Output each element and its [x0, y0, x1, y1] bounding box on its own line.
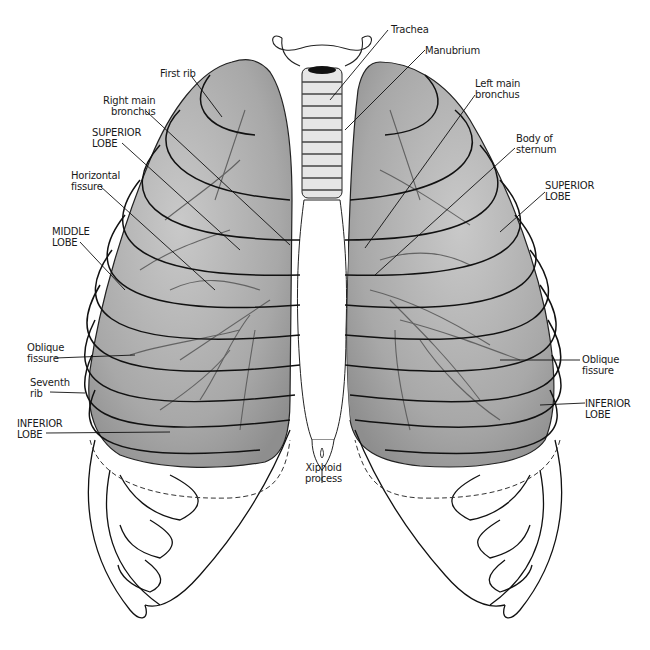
left-lung [322, 62, 554, 467]
sternum [297, 200, 346, 470]
label-oblique-fissure-left: Oblique fissure [582, 354, 619, 376]
label-horizontal-fissure: Horizontal fissure [71, 170, 120, 192]
label-trachea: Trachea [391, 24, 429, 35]
lungs-thorax-diagram [0, 0, 650, 650]
manubrium-outline [273, 36, 372, 66]
label-right-main-bronchus: Right main bronchus [103, 95, 156, 117]
label-manubrium: Manubrium [425, 45, 480, 56]
label-inferior-lobe-left: INFERIOR LOBE [585, 398, 631, 420]
label-superior-lobe-right: SUPERIOR LOBE [92, 127, 141, 149]
label-xiphoid-process: Xiphoid process [305, 462, 342, 484]
label-inferior-lobe-right: INFERIOR LOBE [17, 418, 63, 440]
label-superior-lobe-left: SUPERIOR LOBE [545, 180, 594, 202]
label-middle-lobe: MIDDLE LOBE [52, 226, 90, 248]
label-body-of-sternum: Body of sternum [516, 133, 556, 155]
label-oblique-fissure-right: Oblique fissure [27, 342, 64, 364]
label-first-rib: First rib [160, 68, 196, 79]
label-seventh-rib: Seventh rib [30, 377, 70, 399]
trachea [302, 66, 342, 198]
label-left-main-bronchus: Left main bronchus [475, 78, 520, 100]
right-lung [89, 60, 292, 468]
